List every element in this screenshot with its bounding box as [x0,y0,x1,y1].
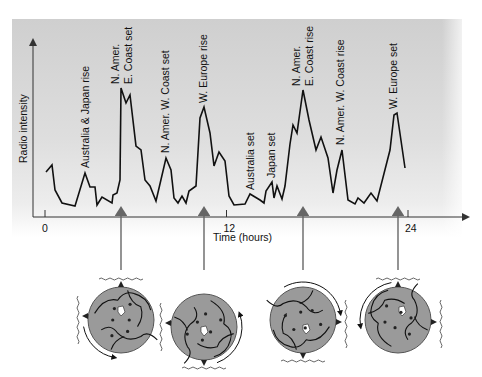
radio-wave-icon [281,360,325,362]
land-speck [128,318,131,321]
land-speck [186,332,189,335]
x-axis-label: Time (hours) [213,231,272,243]
earth-globes [77,278,442,369]
antenna-icon [165,320,171,326]
annotation-label: Australia & Japan rise [79,66,91,168]
earth-globe-3 [267,282,347,362]
land-speck [219,318,222,321]
annotation-label: N. Amer. [109,44,121,84]
land-speck [111,318,114,321]
land-speck [110,334,113,337]
land-speck [385,304,388,307]
land-speck [408,333,411,336]
annotation-label: N. Amer. [290,46,302,86]
land-speck [319,323,322,326]
antenna-icon [395,281,401,287]
land-speck [196,320,199,323]
radio-wave-icon [345,300,347,348]
land-speck [209,330,212,333]
antenna-icon [300,353,306,359]
radio-wave-icon [440,300,442,348]
antenna-icon [118,281,124,287]
y-axis-label: Radio intensity [17,93,29,163]
annotation-label: W. Europe set [387,43,399,109]
radio-intensity-line [46,88,405,206]
land-speck [393,326,396,329]
antenna-icon [431,319,437,325]
land-speck [113,307,116,310]
antenna-icon [201,360,207,366]
x-tick-label: 24 [405,222,417,234]
land-speck [399,311,402,314]
land-speck [292,328,295,331]
annotation-label: E. Coast set [122,27,134,84]
earth-globe-4 [360,278,442,353]
annotation-label: W. Europe rise [197,34,209,103]
antenna-icon [336,319,342,325]
land-speck [409,316,412,319]
land-speck [126,330,129,333]
radio-wave-icon [77,296,79,344]
radio-wave-icon [182,367,226,369]
radio-intensity-chart: 01224 Radio intensity Time (hours) Austr… [0,0,482,377]
earth-globe-2 [160,294,242,369]
radio-wave-icon [99,278,143,280]
annotation-label: N. Amer. W. Coast set [159,50,171,153]
x-tick-label: 0 [42,222,48,234]
annotation-label: Japan set [265,132,277,178]
land-speck [383,320,386,323]
land-speck [299,310,302,313]
event-annotations: Australia & Japan riseN. Amer.E. Coast s… [79,26,399,190]
land-speck [284,314,287,317]
radio-wave-icon [160,303,162,351]
land-speck [311,309,314,312]
land-speck [201,339,204,342]
annotation-label: E. Coast rise [303,26,315,86]
annotation-label: Australia set [244,132,256,190]
antenna-icon [82,313,88,319]
earth-globe-1 [77,278,157,357]
land-speck [128,303,131,306]
land-speck [204,312,207,315]
annotation-label: N. Amer. W. Coast rise [334,39,346,145]
land-speck [304,326,307,329]
radio-wave-icon [376,278,420,280]
